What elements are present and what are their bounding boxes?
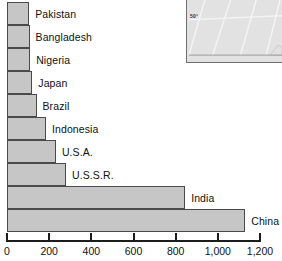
- bar-label: U.S.A.: [62, 146, 93, 158]
- plot-area: PakistanBangladeshNigeriaJapanBrazilIndo…: [0, 0, 282, 233]
- x-axis-tick-label: 1,000: [205, 245, 231, 257]
- bar-label: China: [251, 215, 279, 227]
- bar-row: U.S.S.R.: [7, 163, 260, 186]
- x-axis-tick-label: 0: [4, 245, 10, 257]
- bar-row: Japan: [7, 71, 260, 94]
- bar: [7, 71, 32, 94]
- bar-row: U.S.A.: [7, 140, 260, 163]
- bar-row: Bangladesh: [7, 25, 260, 48]
- bar: [7, 48, 30, 71]
- x-axis: 02004006008001,0001,200: [0, 233, 282, 261]
- bar-label: Nigeria: [36, 54, 70, 66]
- bar: [7, 25, 30, 48]
- bar-row: China: [7, 209, 260, 232]
- x-axis-tick: [217, 233, 219, 242]
- bar-label: Brazil: [43, 100, 70, 112]
- x-axis-tick-label: 600: [125, 245, 143, 257]
- bar: [7, 140, 56, 163]
- bar: [7, 2, 29, 25]
- bar-label: Pakistan: [35, 8, 76, 20]
- bar-label: Indonesia: [52, 123, 98, 135]
- bar: [7, 94, 37, 117]
- x-axis-tick-label: 200: [40, 245, 58, 257]
- bar: [7, 163, 66, 186]
- x-axis-tick: [48, 233, 50, 242]
- bar-label: Japan: [38, 77, 67, 89]
- bar-label: Bangladesh: [36, 31, 92, 43]
- bar-row: Nigeria: [7, 48, 260, 71]
- bar-row: India: [7, 186, 260, 209]
- x-axis-tick: [175, 233, 177, 242]
- x-axis-tick-label: 400: [83, 245, 101, 257]
- bar: [7, 117, 46, 140]
- x-axis-tick: [259, 233, 261, 242]
- x-axis-tick: [133, 233, 135, 242]
- x-axis-tick: [6, 233, 8, 242]
- bar-row: Indonesia: [7, 117, 260, 140]
- x-axis-tick-label: 800: [167, 245, 185, 257]
- bar: [7, 209, 245, 232]
- bar-label: India: [191, 192, 214, 204]
- bar-row: Pakistan: [7, 2, 260, 25]
- x-axis-tick: [90, 233, 92, 242]
- population-bar-chart: 50° PakistanBangladeshNigeriaJapanBrazil…: [0, 0, 282, 261]
- bar-label: U.S.S.R.: [72, 169, 114, 181]
- x-axis-tick-label: 1,200: [247, 245, 273, 257]
- bar-row: Brazil: [7, 94, 260, 117]
- bar: [7, 186, 185, 209]
